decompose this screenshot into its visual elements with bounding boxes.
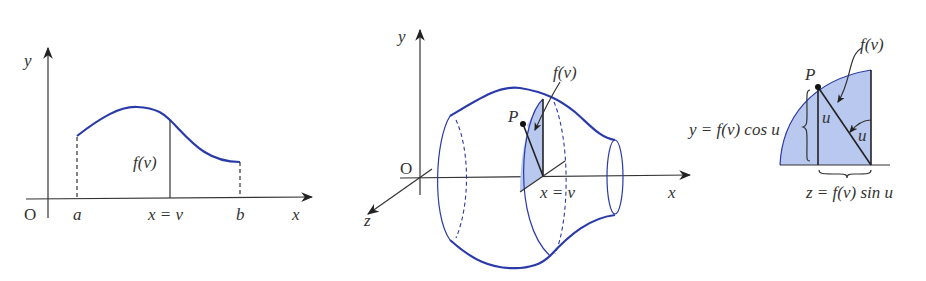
origin-label: O xyxy=(24,205,36,224)
b-label: b xyxy=(236,205,245,224)
figure-cross-section: P f(v) u u y = f(v) cos u z = f(v) sin u xyxy=(687,35,893,202)
section-ring-back xyxy=(554,102,566,254)
u-label-right: u xyxy=(858,126,867,145)
figure-2d-curve: y O a x = v b x f(v) xyxy=(22,48,312,224)
fv-3d-label: f(v) xyxy=(553,63,577,82)
x-axis-3d-label: x xyxy=(667,183,676,202)
x-axis xyxy=(26,197,312,199)
fv-detail-label: f(v) xyxy=(860,35,884,54)
point-P-detail xyxy=(815,84,821,90)
x-axis-label: x xyxy=(291,205,300,224)
point-P xyxy=(520,121,526,127)
y-axis-3d-label: y xyxy=(396,27,406,46)
lower-profile xyxy=(450,215,615,268)
fv-label: f(v) xyxy=(133,153,157,172)
z-brace xyxy=(819,170,871,178)
figure-3d-solid: y O z x P f(v) x = v xyxy=(363,27,690,268)
origin-3d-label: O xyxy=(400,159,412,178)
y-axis-label: y xyxy=(22,51,32,70)
y-equation: y = f(v) cos u xyxy=(687,120,780,139)
left-hidden-edge xyxy=(456,120,467,238)
u-label-left: u xyxy=(822,108,831,127)
function-curve xyxy=(77,107,240,162)
xv-3d-label: x = v xyxy=(539,183,576,202)
a-label: a xyxy=(73,205,82,224)
right-end-ellipse xyxy=(607,140,623,214)
P-label: P xyxy=(507,107,518,126)
z-equation: z = f(v) sin u xyxy=(805,183,893,202)
diagram-canvas: y O a x = v b x f(v) y O z x xyxy=(0,0,926,281)
P-detail-label: P xyxy=(804,65,815,84)
xv-label: x = v xyxy=(147,205,184,224)
z-axis-3d-label: z xyxy=(363,211,371,230)
